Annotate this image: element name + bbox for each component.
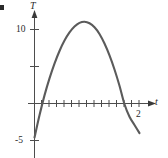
y-tick-label-neg5: -5 <box>15 136 23 146</box>
x-tick-label-2: 2 <box>136 110 141 120</box>
x-axis-group <box>28 100 156 107</box>
temperature-curve <box>35 22 140 138</box>
graph-figure: T t 10 -5 2 <box>0 0 168 158</box>
y-axis-label: T <box>30 1 36 11</box>
y-axis-arrowhead <box>32 10 38 18</box>
y-tick-label-10: 10 <box>16 25 26 35</box>
x-axis-label: t <box>155 97 158 107</box>
